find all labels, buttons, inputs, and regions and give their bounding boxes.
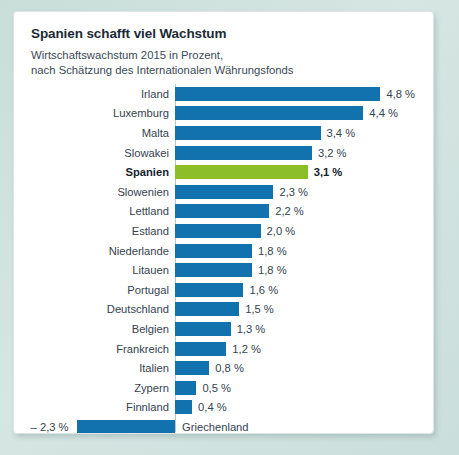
bar [77, 420, 175, 434]
page-title: Spanien schafft viel Wachstum [31, 26, 226, 41]
bar-row: Deutschland1,5 % [14, 300, 434, 320]
bar-category-label: Malta [142, 127, 169, 139]
bar-row: Slowakei3,2 % [14, 143, 434, 163]
bar-row: Lettland2,2 % [14, 202, 434, 222]
bar-value-label: 2,2 % [275, 205, 304, 217]
bar-row: Zypern0,5 % [14, 378, 434, 398]
bar-category-label: Italien [139, 362, 169, 374]
bar-value-label: 2,3 % [279, 186, 308, 198]
bar-row: Belgien1,3 % [14, 319, 434, 339]
bar [175, 165, 308, 179]
bar [175, 263, 252, 277]
bar-row: Griechenland– 2,3 % [14, 417, 434, 434]
bar-row: Frankreich1,2 % [14, 339, 434, 359]
infographic-page: Spanien schafft viel Wachstum Wirtschaft… [0, 0, 459, 455]
bar-row: Italien0,8 % [14, 358, 434, 378]
bar-value-label: 3,4 % [327, 127, 356, 139]
bar-row: Portugal1,6 % [14, 280, 434, 300]
bar [175, 224, 261, 238]
bar [175, 204, 269, 218]
bar-category-label: Belgien [132, 323, 169, 335]
bar [175, 361, 209, 375]
bar-row: Estland2,0 % [14, 221, 434, 241]
bar-value-label: 0,4 % [198, 401, 227, 413]
bar [175, 106, 363, 120]
bar-rows: Irland4,8 %Luxemburg4,4 %Malta3,4 %Slowa… [14, 84, 434, 434]
bar-row: Spanien3,1 % [14, 162, 434, 182]
bar-row: Malta3,4 % [14, 123, 434, 143]
bar-value-label: 3,1 % [314, 166, 343, 178]
bar-category-label: Griechenland [182, 421, 249, 433]
bar [175, 342, 226, 356]
bar-value-label: 1,5 % [245, 303, 274, 315]
bar-category-label: Frankreich [116, 343, 169, 355]
bar-row: Finnland0,4 % [14, 398, 434, 418]
bar [175, 126, 321, 140]
bar-row: Slowenien2,3 % [14, 182, 434, 202]
bar-value-label: 1,6 % [249, 284, 278, 296]
bar-category-label: Lettland [129, 205, 169, 217]
bar-value-label: 1,8 % [258, 264, 287, 276]
bar-category-label: Luxemburg [113, 107, 169, 119]
bar-value-label: 1,3 % [237, 323, 266, 335]
chart-subtitle: Wirtschaftswachstum 2015 in Prozent, nac… [31, 48, 294, 77]
bar-category-label: Estland [132, 225, 169, 237]
bar [175, 302, 239, 316]
bar [175, 87, 380, 101]
bar-category-label: Slowenien [117, 186, 169, 198]
bar-value-label: 0,5 % [202, 382, 231, 394]
bar-value-label: 3,2 % [318, 147, 347, 159]
bar-category-label: Zypern [134, 382, 169, 394]
bar-category-label: Slowakei [124, 147, 169, 159]
bar-value-label: – 2,3 % [31, 421, 69, 433]
bar-category-label: Litauen [132, 264, 169, 276]
bar-value-label: 1,2 % [232, 343, 261, 355]
bar-value-label: 0,8 % [215, 362, 244, 374]
bar-category-label: Finnland [126, 401, 169, 413]
chart-card: Spanien schafft viel Wachstum Wirtschaft… [13, 11, 434, 434]
bar-category-label: Niederlande [109, 245, 169, 257]
bar-row: Luxemburg4,4 % [14, 104, 434, 124]
bar-row: Niederlande1,8 % [14, 241, 434, 261]
bar-category-label: Irland [141, 88, 169, 100]
chart-subtitle-line-1: Wirtschaftswachstum 2015 in Prozent, [31, 48, 294, 63]
bar-row: Litauen1,8 % [14, 260, 434, 280]
bar-value-label: 4,8 % [386, 88, 415, 100]
bar-value-label: 1,8 % [258, 245, 287, 257]
bar [175, 322, 231, 336]
bar [175, 400, 192, 414]
bar [175, 381, 196, 395]
bar [175, 244, 252, 258]
bar-row: Irland4,8 % [14, 84, 434, 104]
chart-subtitle-line-2: nach Schätzung des Internationalen Währu… [31, 63, 294, 78]
bar-category-label: Portugal [127, 284, 169, 296]
bar [175, 146, 312, 160]
bar-value-label: 2,0 % [267, 225, 296, 237]
bar-value-label: 4,4 % [369, 107, 398, 119]
bar-chart-plot-area: Irland4,8 %Luxemburg4,4 %Malta3,4 %Slowa… [14, 84, 434, 432]
bar-category-label: Deutschland [107, 303, 169, 315]
bar [175, 185, 273, 199]
bar-category-label: Spanien [125, 166, 169, 178]
bar [175, 283, 243, 297]
